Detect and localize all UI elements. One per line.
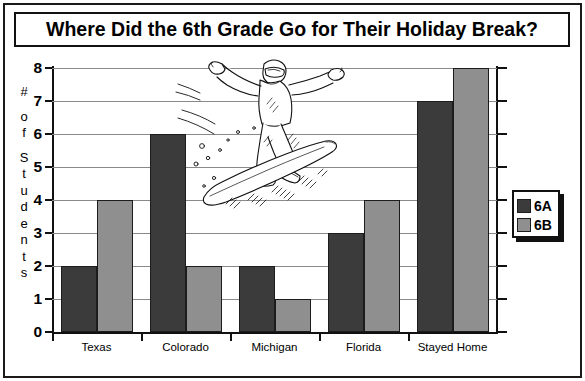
y-axis-tick bbox=[45, 265, 52, 267]
title-box: Where Did the 6th Grade Go for Their Hol… bbox=[14, 12, 570, 47]
x-axis-line bbox=[52, 332, 498, 334]
y-axis-tick-label: 7 bbox=[26, 93, 42, 109]
y-axis-label-char: o bbox=[16, 109, 32, 126]
y-axis-tick bbox=[45, 100, 52, 102]
right-axis-tick bbox=[498, 199, 507, 201]
bar-6b-colorado bbox=[186, 266, 222, 332]
x-axis-tick bbox=[52, 334, 54, 341]
right-axis-tick bbox=[498, 166, 507, 168]
legend: 6A6B bbox=[512, 190, 560, 238]
bar-6a-stayed-home bbox=[417, 101, 453, 332]
legend-swatch-6b bbox=[517, 218, 531, 232]
right-axis-tick bbox=[498, 265, 507, 267]
bar-6b-florida bbox=[364, 200, 400, 332]
bar-6a-colorado bbox=[150, 134, 186, 332]
x-axis-tick bbox=[319, 334, 321, 341]
y-axis-tick-label: 4 bbox=[26, 192, 42, 208]
y-axis-label: #ofStudents bbox=[16, 84, 32, 282]
chart-figure: Where Did the 6th Grade Go for Their Hol… bbox=[0, 0, 585, 381]
y-axis-tick bbox=[45, 133, 52, 135]
y-axis-tick bbox=[45, 199, 52, 201]
plot-area bbox=[52, 68, 497, 332]
x-axis-category-label: Stayed Home bbox=[408, 341, 497, 353]
x-axis-category-label: Michigan bbox=[230, 341, 319, 353]
right-axis-tick bbox=[498, 133, 507, 135]
y-axis-tick-label: 8 bbox=[26, 60, 42, 76]
legend-item-6b: 6B bbox=[517, 215, 555, 234]
bar-6a-michigan bbox=[239, 266, 275, 332]
x-axis-tick bbox=[408, 334, 410, 341]
y-axis-tick bbox=[45, 67, 52, 69]
y-axis-tick-label: 1 bbox=[26, 291, 42, 307]
y-axis-tick-label: 3 bbox=[26, 225, 42, 241]
y-axis-tick bbox=[45, 232, 52, 234]
legend-swatch-6a bbox=[517, 199, 531, 213]
right-axis-tick bbox=[498, 298, 507, 300]
x-axis-category-label: Florida bbox=[319, 341, 408, 353]
y-axis-tick-label: 5 bbox=[26, 159, 42, 175]
y-axis-tick-label: 0 bbox=[26, 324, 42, 340]
legend-item-6a: 6A bbox=[517, 196, 555, 215]
bar-6b-stayed-home bbox=[453, 68, 489, 332]
x-axis-category-label: Colorado bbox=[141, 341, 230, 353]
x-axis-category-label: Texas bbox=[52, 341, 141, 353]
right-axis-tick bbox=[498, 67, 507, 69]
bar-6a-florida bbox=[328, 233, 364, 332]
page-title: Where Did the 6th Grade Go for Their Hol… bbox=[46, 18, 538, 41]
y-axis-tick-label: 2 bbox=[26, 258, 42, 274]
right-axis-tick bbox=[498, 331, 507, 333]
legend-label-6b: 6B bbox=[534, 218, 552, 232]
gridline bbox=[52, 68, 497, 69]
bar-6a-texas bbox=[61, 266, 97, 332]
bar-6b-michigan bbox=[275, 299, 311, 332]
bar-6b-texas bbox=[97, 200, 133, 332]
legend-label-6a: 6A bbox=[534, 199, 552, 213]
y-axis-tick bbox=[45, 166, 52, 168]
y-axis-tick bbox=[45, 298, 52, 300]
x-axis-tick bbox=[141, 334, 143, 341]
x-axis-tick bbox=[230, 334, 232, 341]
y-axis-tick-label: 6 bbox=[26, 126, 42, 142]
y-axis-tick bbox=[45, 331, 52, 333]
right-axis-tick bbox=[498, 232, 507, 234]
right-axis-tick bbox=[498, 100, 507, 102]
